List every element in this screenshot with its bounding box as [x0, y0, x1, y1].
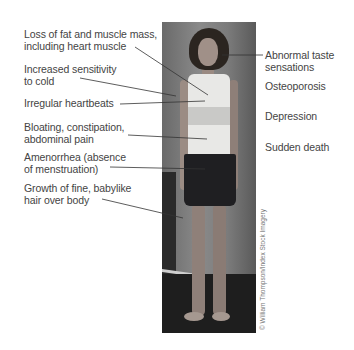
label-amenorrhea: Amenorrhea (absence of menstruation) — [24, 152, 126, 175]
label-irregular-heartbeats: Irregular heartbeats — [24, 98, 114, 110]
photo-face — [198, 38, 218, 66]
label-sensitivity-cold: Increased sensitivity to cold — [24, 64, 116, 87]
photo-shadow — [162, 172, 176, 282]
photo-leg-right — [213, 204, 226, 316]
photo-foot-right — [212, 312, 230, 321]
label-bloating: Bloating, constipation, abdominal pain — [24, 122, 124, 145]
label-osteoporosis: Osteoporosis — [265, 81, 326, 93]
photo-credit: © William Thompson/Index Stock Imagery — [259, 209, 266, 330]
label-sudden-death: Sudden death — [265, 142, 329, 154]
photo-floor — [162, 274, 256, 333]
photo-emaciated-person — [162, 22, 256, 333]
label-loss-of-fat: Loss of fat and muscle mass, including h… — [24, 29, 157, 52]
photo-tank-band — [188, 107, 230, 125]
photo-shorts — [184, 154, 236, 206]
photo-leg-left — [192, 204, 205, 316]
label-depression: Depression — [265, 111, 317, 123]
label-babylike-hair: Growth of fine, babylike hair over body — [24, 183, 131, 206]
label-abnormal-taste: Abnormal taste sensations — [265, 50, 334, 73]
photo-foot-left — [184, 312, 204, 321]
